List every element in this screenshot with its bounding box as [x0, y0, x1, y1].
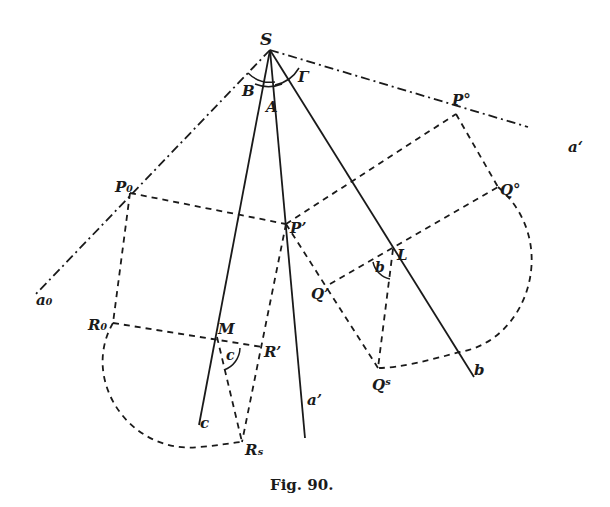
line-a-zero	[35, 50, 270, 295]
label-Q0-sup: Q°	[500, 181, 521, 199]
label-P-prime: P’	[289, 219, 307, 237]
label-b-line: b	[474, 361, 485, 379]
label-a-prime: a’	[307, 391, 322, 409]
line-Pprime-Qs	[286, 224, 378, 368]
label-B: B	[241, 82, 255, 100]
line-Pprime-Rs	[242, 224, 286, 442]
label-P0-sup: P°	[451, 91, 471, 109]
label-R-prime: R’	[263, 343, 281, 361]
label-c-angle: c	[226, 347, 235, 363]
line-c	[199, 50, 270, 425]
label-S: S	[260, 29, 272, 49]
label-c-line: c	[200, 414, 209, 432]
label-A: A	[264, 98, 278, 116]
line-b	[270, 50, 474, 377]
label-Q-s: Qˢ	[372, 376, 391, 394]
figure-caption: Fig. 90.	[270, 476, 333, 494]
label-M: M	[217, 320, 235, 338]
label-L: L	[396, 246, 408, 264]
line-Qprime-Q0	[330, 187, 498, 284]
label-a-double-prime: a‘	[568, 138, 583, 156]
line-P0sup-Q0	[456, 114, 498, 187]
line-P0-R0	[113, 193, 130, 323]
label-Q-prime: Q’	[311, 285, 329, 303]
arc-R0-Rs	[103, 323, 242, 448]
label-R-s: Rₛ	[244, 441, 263, 459]
line-R0-Rprime	[113, 323, 262, 347]
label-a-zero: a₀	[36, 291, 53, 309]
line-P0-Pprime	[130, 193, 286, 224]
label-b-angle: b	[375, 259, 385, 275]
line-Pprime-P0sup	[286, 114, 456, 224]
line-a-double-prime	[270, 50, 528, 127]
angle-B-arc	[248, 73, 275, 82]
label-Gamma: Γ	[297, 68, 310, 86]
arc-Q0-Qs	[378, 187, 532, 368]
label-R0: R₀	[87, 316, 107, 334]
label-P0-sub: P₀	[114, 178, 133, 196]
geometric-figure: S B A Γ P° a‘ Q° P₀ P’ L b Q’ a₀ R₀ M c …	[0, 0, 610, 507]
